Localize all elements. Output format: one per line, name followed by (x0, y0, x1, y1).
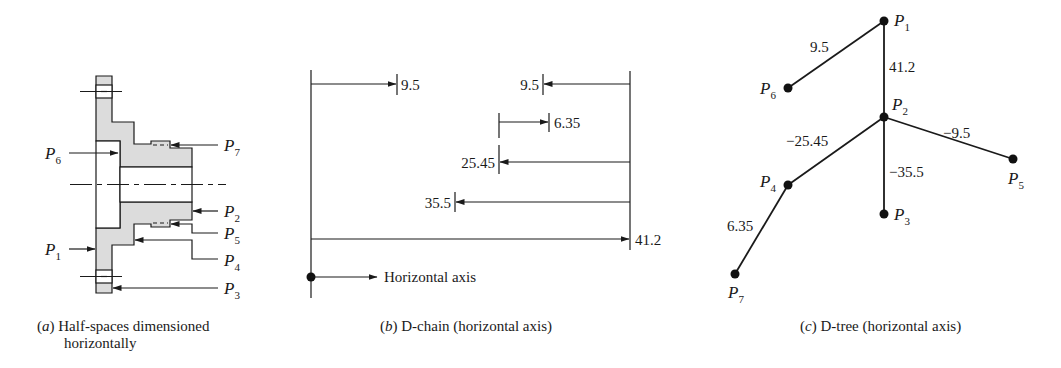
panel-b-d-chain: 9.5 9.5 6.35 25.45 35.5 41.2 Horizontal … (307, 70, 662, 335)
node-label-P7: P7 (727, 283, 744, 305)
node-label-P2: P2 (891, 95, 908, 117)
caption-b: (b) D-chain (horizontal axis) (380, 318, 552, 335)
figure: P6 P1 P7 P2 P5 P4 P3 (a) Half-spaces dim… (0, 0, 1061, 368)
dim-9.5-left-value: 9.5 (401, 77, 420, 93)
caption-a: (a) Half-spaces dimensioned (37, 318, 210, 335)
node-P4 (784, 181, 793, 190)
edge-label-P4-P7: 6.35 (727, 218, 753, 234)
dim-35.5-value: 35.5 (425, 195, 451, 211)
node-P2 (880, 113, 889, 122)
node-label-P5: P5 (1007, 169, 1024, 191)
edge-P1-P6 (788, 21, 884, 88)
panel-c-d-tree: P1 P2 P3 P4 P5 P6 P7 9.5 41.2 −25.45 −9.… (727, 11, 1024, 335)
dim-6.35-value: 6.35 (554, 115, 580, 131)
caption-c: (c) D-tree (horizontal axis) (800, 318, 961, 335)
node-P6 (784, 84, 793, 93)
label-P2: P2 (223, 202, 240, 224)
edge-P2-P4 (788, 117, 884, 185)
leader-P5 (171, 224, 218, 233)
label-P1: P1 (44, 240, 61, 262)
leader-P4 (135, 240, 218, 259)
edge-label-P1-P6: 9.5 (810, 39, 829, 55)
label-P5: P5 (223, 224, 240, 246)
label-P6: P6 (44, 144, 61, 166)
node-label-P4: P4 (759, 172, 776, 194)
edge-label-P2-P4: −25.45 (786, 133, 828, 149)
node-label-P1: P1 (893, 11, 910, 33)
label-P4: P4 (223, 251, 240, 273)
dim-25.45-value: 25.45 (461, 155, 495, 171)
node-P3 (880, 210, 889, 219)
node-P7 (731, 270, 740, 279)
edge-label-P1-P2: 41.2 (889, 59, 915, 75)
node-P5 (1009, 155, 1018, 164)
dim-41.2-value: 41.2 (635, 232, 661, 248)
label-P7: P7 (223, 136, 240, 158)
dim-9.5-right-value: 9.5 (520, 77, 539, 93)
edge-label-P2-P5: −9.5 (943, 125, 970, 141)
edge-label-P2-P3: −35.5 (889, 164, 924, 180)
node-P1 (880, 17, 889, 26)
caption-a-line2: horizontally (64, 335, 137, 351)
label-P3: P3 (223, 279, 240, 301)
axis-label: Horizontal axis (384, 269, 476, 285)
node-label-P3: P3 (893, 205, 910, 227)
panel-a-half-spaces: P6 P1 P7 P2 P5 P4 P3 (a) Half-spaces dim… (37, 76, 240, 351)
node-label-P6: P6 (759, 79, 776, 101)
